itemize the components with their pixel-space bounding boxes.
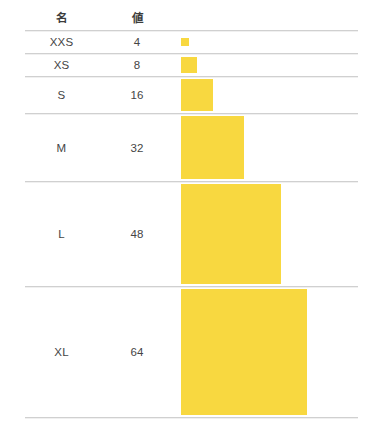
cell-mark — [176, 184, 358, 284]
table-row: L 48 — [25, 182, 358, 286]
footer-divider — [25, 417, 358, 418]
cell-value: 8 — [98, 59, 176, 71]
cell-mark — [176, 116, 358, 179]
table-row: M 32 — [25, 114, 358, 181]
table-inner: 名 値 XXS 4 XS 8 S 16 — [25, 0, 358, 418]
row-divider — [25, 181, 358, 182]
table-row: XL 64 — [25, 287, 358, 417]
table-row: XXS 4 — [25, 31, 358, 53]
row-divider — [25, 113, 358, 114]
cell-value: 48 — [98, 228, 176, 240]
table-row: S 16 — [25, 77, 358, 113]
cell-mark — [176, 79, 358, 111]
cell-value: 4 — [98, 36, 176, 48]
column-header-value: 値 — [98, 13, 176, 31]
header-divider — [25, 30, 358, 31]
row-divider — [25, 53, 358, 54]
square-mark — [181, 116, 244, 179]
cell-mark — [176, 57, 358, 73]
cell-value: 64 — [98, 346, 176, 358]
cell-name: L — [25, 228, 98, 240]
table-header-row: 名 値 — [25, 0, 358, 30]
cell-name: M — [25, 142, 98, 154]
cell-name: XL — [25, 346, 98, 358]
cell-mark — [176, 38, 358, 46]
square-mark — [181, 38, 189, 46]
row-divider — [25, 286, 358, 287]
table-row: XS 8 — [25, 54, 358, 76]
cell-value: 32 — [98, 142, 176, 154]
column-header-name: 名 — [25, 13, 98, 31]
size-encoded-table: 名 値 XXS 4 XS 8 S 16 — [0, 0, 370, 440]
square-mark — [181, 79, 213, 111]
cell-name: XXS — [25, 36, 98, 48]
cell-name: S — [25, 89, 98, 101]
square-mark — [181, 289, 307, 415]
cell-mark — [176, 289, 358, 415]
square-mark — [181, 57, 197, 73]
cell-value: 16 — [98, 89, 176, 101]
row-divider — [25, 76, 358, 77]
cell-name: XS — [25, 59, 98, 71]
square-mark — [181, 184, 281, 284]
